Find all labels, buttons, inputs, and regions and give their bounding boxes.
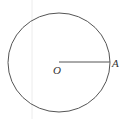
diagram-svg [0, 0, 126, 119]
diagram-canvas: O A [0, 0, 126, 119]
point-label-A: A [112, 58, 119, 69]
center-label-O: O [53, 65, 61, 76]
